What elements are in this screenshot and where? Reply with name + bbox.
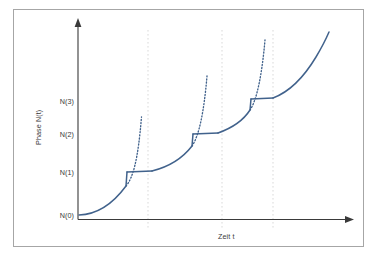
plateau-3 (251, 98, 273, 99)
y-tick-label-n3: N(3) (44, 97, 74, 106)
dotted-branch-2 (192, 76, 207, 146)
x-axis-arrow-icon (345, 216, 354, 223)
gridlines (148, 30, 273, 228)
y-tick-label-n0: N(0) (44, 211, 74, 220)
y-axis-title: Phase N(t) (34, 110, 43, 145)
axes (78, 26, 346, 220)
y-axis-arrow-icon (75, 18, 82, 27)
solid-branch-2 (152, 134, 193, 171)
solid-branch-1 (79, 172, 127, 215)
dotted-branch-1 (126, 117, 142, 186)
phase-dotted-continuations (126, 40, 265, 186)
chart-figure: N(3) N(2) N(1) N(0) Phase N(t) Zeit t (0, 0, 378, 259)
y-tick-label-n1: N(1) (44, 168, 74, 177)
solid-branch-3 (218, 99, 251, 133)
x-axis-title: Zeit t (218, 232, 235, 241)
plateau-2 (193, 133, 218, 134)
phase-solid-curve (79, 32, 329, 215)
y-tick-label-n2: N(2) (44, 130, 74, 139)
plateau-1 (127, 171, 152, 172)
solid-branch-4 (273, 32, 329, 98)
